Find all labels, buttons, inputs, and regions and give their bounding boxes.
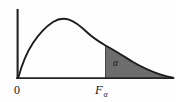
origin-label: 0 (14, 83, 20, 97)
critical-value-label: F (94, 83, 103, 97)
critical-value-subscript-label: α (104, 90, 109, 99)
density-curve (18, 19, 173, 78)
figure-canvas: 0 F α α (0, 0, 176, 102)
f-distribution-figure: 0 F α α (0, 0, 176, 102)
